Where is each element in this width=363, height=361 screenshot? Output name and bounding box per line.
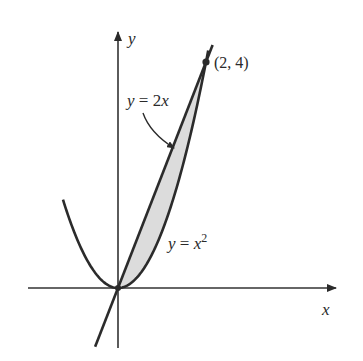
pointer-arrow-icon	[143, 113, 174, 148]
y-axis-label: y	[126, 29, 136, 48]
parabola-equation-label: y = x2	[166, 231, 207, 253]
origin-point-marker	[115, 285, 121, 291]
area-between-curves-diagram: y x (2, 4) y = 2x y = x2	[0, 0, 363, 361]
intersection-point-marker	[202, 58, 209, 65]
line-equation-label: y = 2x	[125, 91, 169, 110]
intersection-label: (2, 4)	[214, 54, 249, 72]
x-axis-label: x	[321, 300, 330, 319]
